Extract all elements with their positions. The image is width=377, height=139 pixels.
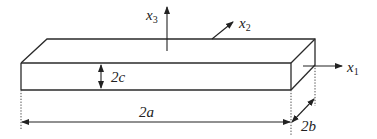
- axis-x3: x3: [145, 7, 167, 51]
- x3-label: x3: [145, 7, 158, 25]
- plate-body: [21, 39, 315, 90]
- extension-lines: [21, 65, 315, 135]
- plate-diagram: x3 x2 x1 2c 2a 2b: [0, 0, 377, 139]
- axis-x2: x2: [212, 15, 251, 39]
- length-label: 2a: [139, 104, 154, 120]
- back-top-edge: [21, 39, 315, 65]
- width-label: 2b: [301, 118, 317, 134]
- x2-arrow-icon: [212, 22, 233, 39]
- dimension-length: 2a: [22, 104, 290, 122]
- dimension-width: 2b: [292, 99, 317, 134]
- thickness-label: 2c: [111, 69, 126, 85]
- x1-label: x1: [346, 59, 359, 77]
- dimension-thickness: 2c: [101, 65, 126, 88]
- right-top-diagonal: [291, 39, 315, 63]
- right-bottom-diagonal: [291, 65, 315, 90]
- x2-label: x2: [238, 15, 251, 33]
